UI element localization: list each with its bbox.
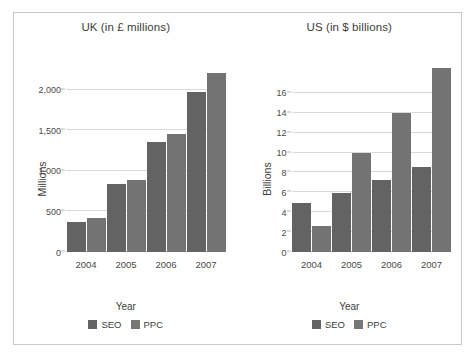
bar-group: 2004 <box>66 57 106 252</box>
y-axis-tick: 2 <box>281 228 286 238</box>
y-axis-tick-mark <box>61 129 65 130</box>
bar-group: 2006 <box>372 57 412 252</box>
x-axis-tick: 2006 <box>146 259 186 270</box>
y-axis-tick-mark <box>287 131 291 132</box>
bar-group: 2007 <box>412 57 452 252</box>
plot-area-us: 02468101214162004200520062007 <box>292 57 448 252</box>
y-axis-tick: 500 <box>46 207 61 217</box>
legend-entry-ppc[interactable]: PPC <box>131 319 164 330</box>
y-axis-tick-mark <box>287 231 291 232</box>
x-axis-tick: 2005 <box>332 259 372 270</box>
x-axis-tick: 2004 <box>66 259 106 270</box>
bar-seo-2005[interactable] <box>332 193 351 252</box>
y-axis-tick-mark <box>287 211 291 212</box>
legend-label-seo: SEO <box>325 319 345 330</box>
bar-groups: 2004200520062007 <box>66 57 226 252</box>
legend-label-seo: SEO <box>101 319 121 330</box>
y-axis-tick-mark <box>61 251 65 252</box>
bar-seo-2004[interactable] <box>67 222 86 252</box>
x-axis-label-uk: Year <box>14 301 238 312</box>
bar-seo-2004[interactable] <box>292 203 311 252</box>
bar-seo-2006[interactable] <box>372 180 391 252</box>
x-axis-tick: 2006 <box>372 259 412 270</box>
y-axis-tick-mark <box>287 171 291 172</box>
bar-ppc-2006[interactable] <box>167 134 186 252</box>
y-axis-tick-mark <box>287 111 291 112</box>
y-axis-tick: 14 <box>276 108 286 118</box>
y-axis-tick-mark <box>61 169 65 170</box>
bar-group: 2005 <box>106 57 146 252</box>
bar-group: 2006 <box>146 57 186 252</box>
legend-entry-seo[interactable]: SEO <box>312 319 345 330</box>
y-axis-tick: 16 <box>276 88 286 98</box>
y-axis-tick: 0 <box>281 248 286 258</box>
y-axis-tick: 0 <box>56 248 61 258</box>
y-axis-tick: 1,500 <box>38 126 61 136</box>
legend-us: SEO PPC <box>238 319 462 330</box>
y-axis-tick: 6 <box>281 188 286 198</box>
y-axis-label-us: Billions <box>260 162 272 195</box>
y-axis-tick: 12 <box>276 128 286 138</box>
bar-ppc-2005[interactable] <box>127 180 146 252</box>
legend-entry-seo[interactable]: SEO <box>88 319 121 330</box>
y-axis-tick-mark <box>287 251 291 252</box>
y-axis-tick: 1,000 <box>38 166 61 176</box>
y-axis-tick: 10 <box>276 148 286 158</box>
bar-ppc-2006[interactable] <box>392 113 411 252</box>
plot-area-uk: 05001,0001,5002,0002004200520062007 <box>66 57 226 252</box>
legend-entry-ppc[interactable]: PPC <box>354 319 387 330</box>
legend-swatch-ppc-icon <box>354 320 363 329</box>
chart-title-uk: UK (in £ millions) <box>14 21 238 33</box>
y-axis-tick-mark <box>287 91 291 92</box>
legend-swatch-seo-icon <box>88 320 97 329</box>
y-axis-tick-mark <box>287 151 291 152</box>
y-axis-tick: 2,000 <box>38 85 61 95</box>
chart-panel-uk: UK (in £ millions) Millions 05001,0001,5… <box>14 13 238 344</box>
chart-panels: UK (in £ millions) Millions 05001,0001,5… <box>14 13 461 344</box>
bar-group: 2005 <box>332 57 372 252</box>
y-axis-tick-mark <box>61 210 65 211</box>
bar-seo-2005[interactable] <box>107 184 126 252</box>
chart-figure: UK (in £ millions) Millions 05001,0001,5… <box>13 12 462 345</box>
bar-group: 2004 <box>292 57 332 252</box>
bar-ppc-2007[interactable] <box>432 68 451 252</box>
bar-seo-2007[interactable] <box>187 92 206 252</box>
legend-uk: SEO PPC <box>14 319 238 330</box>
y-axis-tick-mark <box>287 191 291 192</box>
bar-ppc-2007[interactable] <box>207 73 226 252</box>
bar-ppc-2004[interactable] <box>312 226 331 252</box>
bar-seo-2006[interactable] <box>147 142 166 253</box>
x-axis-tick: 2007 <box>186 259 226 270</box>
x-axis-label-us: Year <box>238 301 462 312</box>
legend-swatch-seo-icon <box>312 320 321 329</box>
y-axis-tick: 8 <box>281 168 286 178</box>
x-axis-tick: 2005 <box>106 259 146 270</box>
x-axis-tick: 2004 <box>292 259 332 270</box>
bar-ppc-2004[interactable] <box>87 218 106 252</box>
x-axis-tick: 2007 <box>412 259 452 270</box>
bar-ppc-2005[interactable] <box>352 153 371 252</box>
y-axis-tick-mark <box>61 88 65 89</box>
legend-label-ppc: PPC <box>367 319 387 330</box>
chart-panel-us: US (in $ billions) Billions 024681012141… <box>238 13 462 344</box>
bar-group: 2007 <box>186 57 226 252</box>
legend-label-ppc: PPC <box>144 319 164 330</box>
bar-seo-2007[interactable] <box>412 167 431 252</box>
bar-groups: 2004200520062007 <box>292 57 448 252</box>
chart-title-us: US (in $ billions) <box>238 21 462 33</box>
y-axis-tick: 4 <box>281 208 286 218</box>
legend-swatch-ppc-icon <box>131 320 140 329</box>
